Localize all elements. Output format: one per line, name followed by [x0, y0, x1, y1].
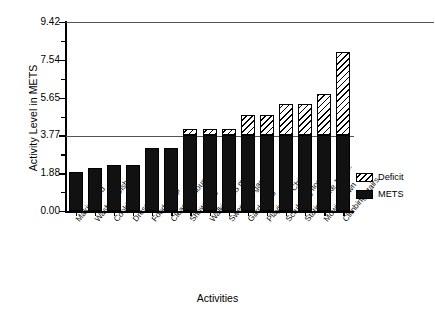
x-tick-mark — [114, 212, 115, 216]
legend-swatch-mets — [356, 190, 373, 199]
x-tick-mark — [152, 212, 153, 216]
y-tick-mark — [59, 98, 66, 99]
y-minor-tick-mark — [61, 192, 66, 193]
y-tick-mark — [59, 60, 66, 61]
x-tick-mark — [248, 212, 249, 216]
legend-label-deficit: Deficit — [378, 172, 404, 182]
legend-item-mets: METS — [356, 189, 434, 199]
x-tick-mark — [171, 212, 172, 216]
y-minor-tick-mark — [61, 117, 66, 118]
y-minor-tick-mark — [61, 41, 66, 42]
x-tick-mark — [95, 212, 96, 216]
x-tick-mark — [76, 212, 77, 216]
legend-swatch-deficit — [356, 173, 373, 182]
y-tick-mark — [59, 211, 66, 212]
x-tick-mark — [286, 212, 287, 216]
y-tick-mark — [59, 173, 66, 174]
legend-item-deficit: Deficit — [356, 172, 434, 182]
y-minor-tick-mark — [61, 154, 66, 155]
chart-figure: Activity Level in METS 0.001.883.775.657… — [0, 0, 435, 317]
y-minor-tick-mark — [61, 79, 66, 80]
x-tick-mark — [229, 212, 230, 216]
x-tick-mark — [267, 212, 268, 216]
x-tick-mark — [343, 212, 344, 216]
x-tick-mark — [210, 212, 211, 216]
x-tick-mark — [190, 212, 191, 216]
y-tick-mark — [59, 135, 66, 136]
x-tick-mark — [305, 212, 306, 216]
x-axis-category-labels: Making bedWashing DishesCookingDressingF… — [0, 0, 435, 317]
x-tick-mark — [133, 212, 134, 216]
y-tick-mark — [59, 22, 66, 23]
legend-label-mets: METS — [378, 189, 404, 199]
x-axis-title: Activities — [0, 292, 435, 304]
x-tick-mark — [324, 212, 325, 216]
chart-legend: Deficit METS — [356, 172, 434, 206]
